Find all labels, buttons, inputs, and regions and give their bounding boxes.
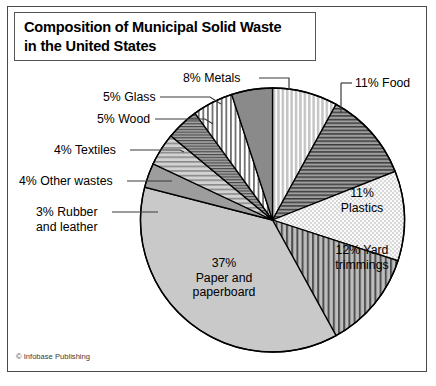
label-yard-line2: trimmings bbox=[316, 258, 408, 273]
label-rubber: 3% Rubber and leather bbox=[36, 205, 98, 234]
label-metals: 8% Metals bbox=[183, 71, 240, 86]
pie-slices bbox=[141, 88, 405, 352]
label-wood: 5% Wood bbox=[97, 112, 150, 127]
label-paper: 37% Paper and paperboard bbox=[166, 256, 282, 300]
figure-root: Composition of Municipal Solid Waste in … bbox=[0, 0, 436, 386]
label-paper-line3: paperboard bbox=[166, 285, 282, 300]
label-textiles: 4% Textiles bbox=[54, 143, 116, 158]
label-yard: 12% Yard trimmings bbox=[316, 243, 408, 272]
label-glass: 5% Glass bbox=[103, 90, 156, 105]
label-other-wastes: 4% Other wastes bbox=[19, 174, 113, 189]
label-food: 11% Food bbox=[355, 76, 410, 91]
label-plastics: 11% Plastics bbox=[326, 186, 398, 215]
label-paper-line2: Paper and bbox=[166, 271, 282, 286]
label-yard-line1: 12% Yard bbox=[316, 243, 408, 258]
label-paper-line1: 37% bbox=[166, 256, 282, 271]
label-rubber-line2: and leather bbox=[36, 220, 98, 235]
label-rubber-line1: 3% Rubber bbox=[36, 205, 98, 220]
label-plastics-line2: Plastics bbox=[326, 201, 398, 216]
label-plastics-line1: 11% bbox=[326, 186, 398, 201]
copyright-notice: © Infobase Publishing bbox=[16, 352, 90, 361]
